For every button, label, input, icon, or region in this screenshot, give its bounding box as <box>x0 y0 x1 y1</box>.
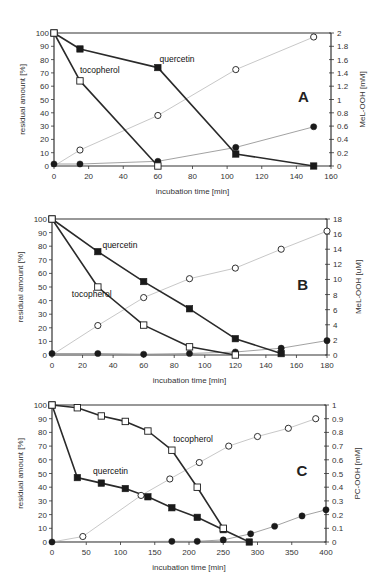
data-point-hydroperoxide-filled <box>49 350 55 356</box>
data-point-tocopherol <box>51 30 57 36</box>
y2-tick-label: 0.4 <box>332 483 344 492</box>
data-point-tocopherol <box>140 322 146 328</box>
y2-tick-label: 0.9 <box>332 415 344 424</box>
x-tick-label: 350 <box>285 548 299 557</box>
y-tick-label: 80 <box>38 428 47 437</box>
y-tick-label: 70 <box>40 69 49 78</box>
y2-tick-label: 10 <box>333 275 342 284</box>
panel-letter: A <box>298 88 309 105</box>
data-point-hydroperoxide-open <box>155 112 161 118</box>
y-tick-label: 40 <box>38 297 47 306</box>
y-tick-label: 60 <box>38 456 47 465</box>
series-line-mel-ooh-quercetin- <box>54 127 314 164</box>
y2-axis-label: MeL-OOH [uM] <box>354 260 363 314</box>
y2-tick-label: 12 <box>333 260 342 269</box>
x-tick-label: 150 <box>148 548 162 557</box>
data-point-quercetin <box>232 335 238 341</box>
y2-tick-label: 2 <box>337 29 342 38</box>
y2-tick-label: 0.6 <box>337 122 349 131</box>
data-point-hydroperoxide-open <box>95 322 101 328</box>
y-tick-label: 70 <box>38 442 47 451</box>
x-tick-label: 60 <box>139 361 148 370</box>
y-tick-label: 80 <box>38 242 47 251</box>
y-tick-label: 90 <box>40 42 49 51</box>
x-tick-label: 60 <box>153 172 162 181</box>
y-tick-label: 40 <box>40 109 49 118</box>
x-tick-label: 0 <box>52 172 57 181</box>
y2-tick-label: 0.5 <box>332 470 344 479</box>
data-point-hydroperoxide-filled <box>233 144 239 150</box>
data-point-hydroperoxide-filled <box>95 350 101 356</box>
data-point-quercetin <box>186 306 192 312</box>
data-point-hydroperoxide-filled <box>272 523 278 529</box>
y2-tick-label: 14 <box>333 245 342 254</box>
x-tick-label: 100 <box>220 172 234 181</box>
x-tick-label: 40 <box>109 361 118 370</box>
y2-tick-label: 6 <box>333 306 338 315</box>
data-point-quercetin <box>77 46 83 52</box>
y2-tick-label: 1 <box>332 401 337 410</box>
x-tick-label: 0 <box>50 361 55 370</box>
data-point-hydroperoxide-open <box>324 228 330 234</box>
data-point-quercetin <box>155 64 161 70</box>
data-point-hydroperoxide-filled <box>186 350 192 356</box>
y-tick-label: 50 <box>40 96 49 105</box>
data-point-quercetin <box>98 480 104 486</box>
y-tick-label: 100 <box>36 29 50 38</box>
chart-svg: 0204060801001201401600102030405060708090… <box>0 0 382 587</box>
y-tick-label: 10 <box>40 149 49 158</box>
y2-tick-label: 1.4 <box>337 69 349 78</box>
y-axis-label: residual amount [%] <box>16 438 25 509</box>
y-tick-label: 100 <box>34 401 48 410</box>
y2-tick-label: 8 <box>333 291 338 300</box>
x-tick-label: 80 <box>188 172 197 181</box>
x-tick-label: 100 <box>114 548 128 557</box>
data-point-hydroperoxide-open <box>138 492 144 498</box>
y-tick-label: 30 <box>38 310 47 319</box>
x-tick-label: 250 <box>217 548 231 557</box>
y-tick-label: 20 <box>38 511 47 520</box>
x-axis-label: incubation time [min] <box>152 563 225 572</box>
y2-tick-label: 4 <box>333 321 338 330</box>
data-point-hydroperoxide-open <box>186 276 192 282</box>
data-point-hydroperoxide-filled <box>169 538 175 544</box>
panel-letter: B <box>297 276 308 293</box>
y-tick-label: 0 <box>43 351 48 360</box>
data-point-hydroperoxide-open <box>311 34 317 40</box>
y2-tick-label: 0.1 <box>332 524 344 533</box>
panel-letter: C <box>297 462 308 479</box>
series-annotation: quercetin <box>102 240 137 250</box>
data-point-hydroperoxide-filled <box>141 351 147 357</box>
y2-tick-label: 18 <box>333 215 342 224</box>
data-point-hydroperoxide-filled <box>51 161 57 167</box>
y-tick-label: 60 <box>38 269 47 278</box>
x-tick-label: 160 <box>324 172 338 181</box>
data-point-tocopherol <box>232 352 238 358</box>
y-tick-label: 70 <box>38 256 47 265</box>
data-point-hydroperoxide-open <box>254 433 260 439</box>
y2-tick-label: 0.7 <box>332 442 344 451</box>
data-point-hydroperoxide-open <box>196 459 202 465</box>
series-line-tocopherol <box>54 33 158 166</box>
y2-axis-label: MeL-OOH [mM] <box>358 71 367 127</box>
data-point-quercetin <box>122 485 128 491</box>
x-tick-label: 300 <box>251 548 265 557</box>
y2-tick-label: 0.6 <box>332 456 344 465</box>
data-point-tocopherol <box>98 413 104 419</box>
x-tick-label: 20 <box>78 361 87 370</box>
x-tick-label: 80 <box>170 361 179 370</box>
y-tick-label: 50 <box>38 283 47 292</box>
data-point-hydroperoxide-filled <box>323 507 329 513</box>
y2-tick-label: 0.2 <box>337 149 349 158</box>
x-tick-label: 100 <box>198 361 212 370</box>
data-point-hydroperoxide-filled <box>77 161 83 167</box>
x-tick-label: 400 <box>319 548 333 557</box>
y-tick-label: 50 <box>38 470 47 479</box>
data-point-quercetin <box>140 278 146 284</box>
data-point-tocopherol <box>122 418 128 424</box>
data-point-hydroperoxide-open <box>77 147 83 153</box>
data-point-hydroperoxide-open <box>278 246 284 252</box>
x-tick-label: 0 <box>50 548 55 557</box>
y-tick-label: 0 <box>45 162 50 171</box>
x-tick-label: 50 <box>82 548 91 557</box>
